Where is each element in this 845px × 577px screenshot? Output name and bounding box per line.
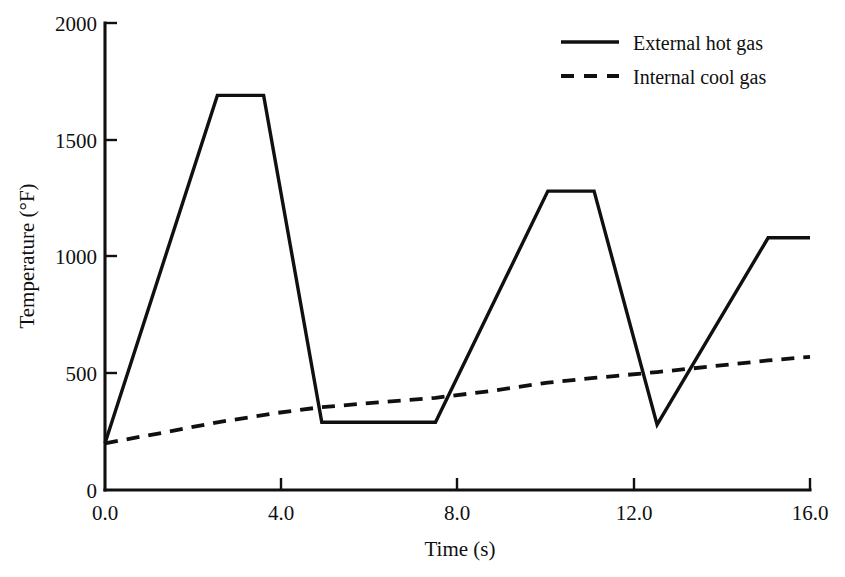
legend-label-internal-cool-gas: Internal cool gas: [633, 66, 766, 89]
series-internal-cool-gas: [105, 357, 810, 443]
x-tick-label-8: 8.0: [444, 501, 470, 525]
y-tick-label-0: 0: [87, 479, 98, 503]
x-tick-label-12: 12.0: [616, 501, 653, 525]
series-external-hot-gas: [105, 95, 810, 443]
y-axis-title: Temperature (°F): [15, 183, 39, 328]
legend-entry-external-hot-gas: External hot gas: [561, 32, 763, 55]
y-ticks: [105, 140, 117, 373]
axes-frame: [105, 23, 810, 490]
x-tick-labels: 0.0 4.0 8.0 12.0 16.0: [92, 501, 829, 525]
chart-legend: External hot gas Internal cool gas: [561, 32, 766, 89]
legend-label-external-hot-gas: External hot gas: [633, 32, 763, 55]
temperature-time-line-chart: 2000 1500 1000 500 0 0.0 4.0 8.0 12.0 16…: [0, 0, 845, 577]
y-tick-label-1000: 1000: [55, 245, 97, 269]
x-tick-label-4: 4.0: [268, 501, 294, 525]
y-tick-label-500: 500: [66, 362, 98, 386]
y-tick-label-1500: 1500: [55, 129, 97, 153]
x-ticks: [281, 478, 634, 490]
x-axis-title: Time (s): [425, 537, 496, 561]
x-tick-label-0: 0.0: [92, 501, 118, 525]
legend-entry-internal-cool-gas: Internal cool gas: [561, 66, 766, 89]
x-tick-label-16: 16.0: [792, 501, 829, 525]
chart-figure: 2000 1500 1000 500 0 0.0 4.0 8.0 12.0 16…: [0, 0, 845, 577]
y-tick-labels: 2000 1500 1000 500 0: [55, 12, 97, 503]
y-tick-label-2000: 2000: [55, 12, 97, 36]
